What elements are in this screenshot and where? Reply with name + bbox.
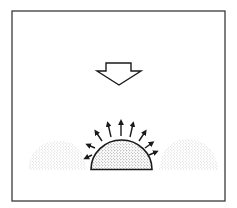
frame-border bbox=[12, 11, 225, 201]
right-mound bbox=[159, 139, 218, 170]
ray-arrow-icon bbox=[108, 124, 111, 137]
left-mound bbox=[28, 141, 87, 170]
ray-arrow-icon bbox=[88, 145, 95, 148]
diagram-svg bbox=[0, 0, 237, 208]
ray-arrow-icon bbox=[96, 132, 102, 141]
ray-arrow-icon bbox=[139, 132, 145, 141]
down-arrow-icon bbox=[97, 63, 141, 85]
ray-arrow-icon bbox=[145, 143, 152, 148]
diagram-canvas bbox=[0, 0, 237, 208]
ray-arrow-icon bbox=[149, 152, 156, 155]
central-dome bbox=[91, 140, 152, 170]
ray-arrow-icon bbox=[130, 124, 133, 137]
ray-arrow-icon bbox=[86, 155, 92, 158]
